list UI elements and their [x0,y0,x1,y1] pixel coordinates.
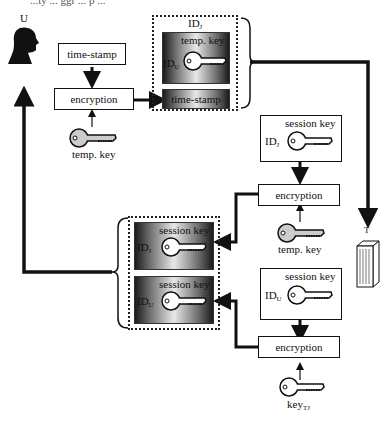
encryption-box-user: encryption [54,88,134,110]
key-icon [68,127,118,149]
server-tower-icon [355,240,381,288]
key-icon [160,290,208,312]
key-tj-label: keyTJ [287,398,310,412]
packet-top-id-label: IDJ [188,17,202,31]
id-j-label: IDJ [265,135,279,149]
key-icon [286,130,334,152]
key-icon [160,236,208,258]
packet-bottom-key-label-j: session key [159,224,209,236]
timestamp-box: time-stamp [58,43,126,65]
session-key-label-j: session key [285,117,335,129]
person-silhouette-icon [6,26,42,66]
server-label: T [364,225,370,235]
brace-top [241,18,256,108]
brace-bottom [112,218,128,328]
key-icon [182,50,228,72]
packet-top-key-label: temp. key [181,34,224,46]
key-icon [276,222,326,244]
key-icon [286,284,334,306]
encryption-box-2: encryption [258,336,340,358]
encryption-box-1: encryption [258,184,340,206]
encrypted-timestamp-block: time-stamp [162,89,230,109]
packet-bottom-key-label-u: session key [159,278,209,290]
packet-top-idu: IDU [163,57,180,71]
id-u-label: IDU [265,289,282,303]
key-icon [278,376,326,398]
temp-key-label-user: temp. key [72,148,115,160]
user-label: U [20,12,28,24]
session-key-label-u: session key [285,270,335,282]
packet-bottom-id-j: IDJ [137,241,151,255]
packet-bottom-id-u: IDU [137,295,154,309]
temp-key-label-server: temp. key [278,243,321,255]
